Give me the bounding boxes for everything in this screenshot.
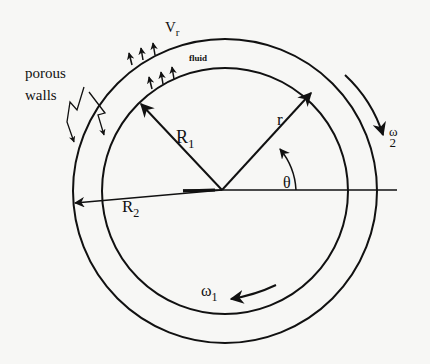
outer-radius-arrow-thick <box>183 190 215 191</box>
inner-rotation-arrow <box>231 285 276 299</box>
inner-radius-label: R1 <box>176 127 195 151</box>
outer-cylinder-wall <box>73 39 377 343</box>
radial-velocity-label: Vr <box>165 19 180 38</box>
porous-walls-label-line1: porous <box>25 65 66 81</box>
radius-arrow <box>222 93 311 190</box>
radial-velocity-arrows-outer <box>129 43 155 65</box>
porous-wall-pointer-inner <box>89 92 105 135</box>
outer-rotation-label: ω2 <box>389 124 398 150</box>
inner-radius-arrow <box>141 104 222 190</box>
porous-wall-pointer-outer <box>67 87 84 142</box>
concentric-cylinders-diagram: porous walls Vr fluid R1 R2 r θ ω2 ω1 <box>0 0 430 364</box>
radius-label: r <box>277 110 283 129</box>
angle-label: θ <box>283 174 291 191</box>
porous-walls-label-line2: walls <box>25 87 57 103</box>
inner-cylinder-wall <box>102 68 348 314</box>
inner-rotation-label: ω1 <box>201 282 218 304</box>
fluid-label: fluid <box>189 53 207 63</box>
outer-radius-label: R2 <box>122 197 139 220</box>
